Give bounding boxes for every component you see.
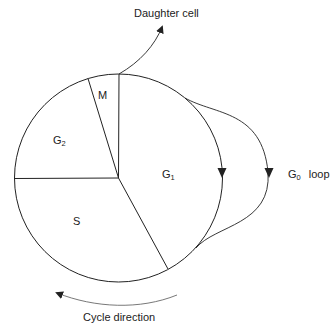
divider-m-g1 <box>119 74 120 178</box>
phase-label-g1: G1 <box>162 169 175 182</box>
phase-g1-text: G <box>162 168 171 180</box>
phase-g2-subscript: 2 <box>62 139 66 148</box>
divider-g2-s <box>15 178 119 179</box>
g1-direction-arrow-icon <box>218 168 227 178</box>
daughter-cell-label: Daughter cell <box>134 8 199 19</box>
phase-s-text: S <box>73 215 80 227</box>
divider-s-g1 <box>119 178 169 269</box>
g0-loop-label: G0loop <box>288 169 330 182</box>
g0-loop-path <box>185 98 268 248</box>
g0-loop-prefix: G <box>288 168 297 180</box>
phase-g2-text: G <box>53 134 62 146</box>
cell-cycle-diagram <box>0 0 335 331</box>
cycle-direction-arrow <box>57 293 177 305</box>
g0-loop-subscript: 0 <box>297 173 301 182</box>
phase-label-m: M <box>98 90 107 101</box>
cycle-direction-label: Cycle direction <box>83 312 155 323</box>
phase-label-g2: G2 <box>53 135 66 148</box>
daughter-cell-arrow <box>119 27 162 74</box>
g0-loop-suffix: loop <box>309 168 330 180</box>
phase-g1-subscript: 1 <box>171 173 175 182</box>
phase-label-s: S <box>73 216 80 227</box>
g0-loop-arrow-icon <box>265 168 274 178</box>
phase-m-text: M <box>98 89 107 101</box>
